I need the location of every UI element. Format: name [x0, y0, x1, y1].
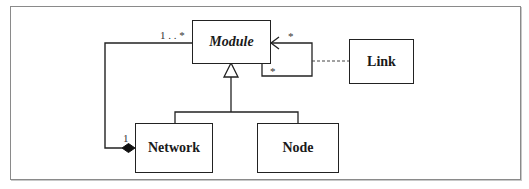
class-name-module: Module	[209, 34, 253, 50]
multiplicity-self-assoc-top: *	[288, 31, 294, 42]
class-name-link: Link	[367, 54, 396, 70]
composition-diamond-icon	[122, 144, 135, 153]
class-name-network: Network	[148, 140, 200, 156]
class-module: Module	[192, 20, 271, 64]
class-name-node: Node	[282, 140, 313, 156]
multiplicity-self-assoc-bottom: *	[270, 66, 276, 77]
generalization-triangle-icon	[224, 63, 238, 77]
class-link: Link	[349, 39, 414, 84]
generalization-connector	[175, 63, 298, 123]
multiplicity-composition-part: 1 . . *	[160, 30, 185, 41]
class-network: Network	[135, 123, 213, 173]
uml-class-diagram: Module Link Network Node 1 . . * 1 * *	[0, 0, 529, 189]
multiplicity-composition-whole: 1	[123, 133, 129, 144]
class-node: Node	[257, 123, 339, 173]
